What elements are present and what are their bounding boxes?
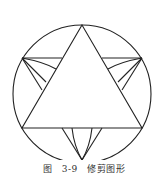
figure-caption: 图 3-9 修剪图形 [0, 162, 168, 175]
left-trimmed-point [22, 58, 62, 90]
right-trimmed-point [102, 58, 142, 90]
outer-circle [13, 25, 151, 160]
diagram-svg [0, 0, 168, 160]
bottom-trimmed-point [62, 128, 102, 160]
trimmed-figure-diagram [0, 0, 168, 160]
